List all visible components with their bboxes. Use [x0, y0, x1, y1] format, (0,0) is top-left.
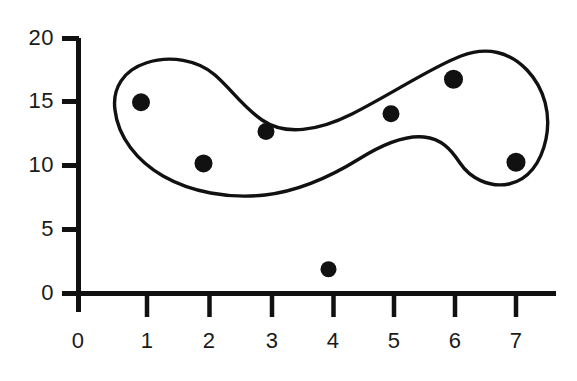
- x-tick-label-1: 1: [141, 328, 154, 354]
- data-point-5: [383, 105, 400, 122]
- x-tick-label-7: 7: [510, 328, 523, 354]
- x-axis-ticks: [79, 293, 517, 317]
- x-tick-label-0: 0: [72, 328, 85, 354]
- data-point-4-outlier: [321, 261, 337, 277]
- data-point-2: [195, 154, 213, 172]
- plot-canvas: [0, 0, 577, 381]
- data-points: [132, 70, 526, 277]
- data-point-1: [132, 93, 150, 111]
- y-tick-label-5: 5: [6, 216, 54, 242]
- x-tick-label-4: 4: [327, 328, 340, 354]
- y-tick-label-20: 20: [6, 25, 54, 51]
- y-tick-label-10: 10: [6, 152, 54, 178]
- x-tick-label-3: 3: [266, 328, 279, 354]
- x-tick-label-6: 6: [449, 328, 462, 354]
- x-tick-label-2: 2: [203, 328, 216, 354]
- data-point-3: [258, 123, 275, 140]
- data-point-7: [507, 153, 526, 172]
- cluster-contour: [115, 51, 548, 196]
- scatter-plot-figure: 20 15 10 5 0 0 1 2 3 4 5 6 7: [0, 0, 577, 381]
- y-tick-label-15: 15: [6, 88, 54, 114]
- x-tick-label-5: 5: [388, 328, 401, 354]
- y-tick-label-0: 0: [6, 280, 54, 306]
- data-point-6: [444, 70, 463, 89]
